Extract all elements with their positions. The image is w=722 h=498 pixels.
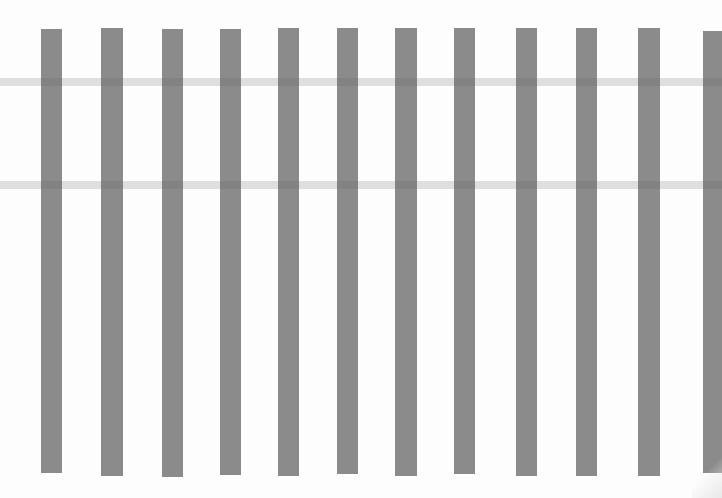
- scan-band-1: [0, 78, 722, 86]
- gray-bar-5: [278, 28, 299, 476]
- gray-bar-6: [337, 28, 358, 474]
- gray-bar-12: [703, 31, 722, 473]
- gray-bar-8: [454, 28, 475, 474]
- gray-bar-1: [41, 29, 62, 473]
- gray-bar-2: [101, 28, 123, 476]
- gray-bar-10: [576, 28, 597, 476]
- scan-band-2: [0, 181, 722, 189]
- gray-bar-7: [395, 28, 417, 476]
- gray-bar-4: [220, 29, 241, 475]
- paper-curl-shadow: [692, 458, 722, 498]
- gray-bar-3: [162, 29, 183, 477]
- gray-bar-9: [516, 28, 537, 476]
- gray-bar-11: [638, 28, 660, 476]
